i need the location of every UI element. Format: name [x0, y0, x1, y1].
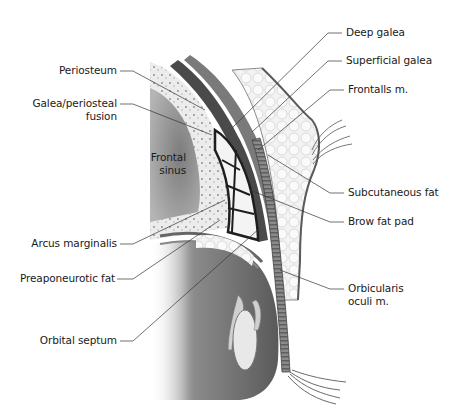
- label-orbicularis-line1: Orbicularis: [348, 282, 404, 295]
- label-orbicularis-oculi: Orbicularis oculi m.: [348, 282, 404, 308]
- label-brow-fat-pad: Brow fat pad: [348, 215, 414, 228]
- label-frontal-sinus-line1: Frontal: [150, 151, 186, 164]
- label-frontal-sinus-line2: sinus: [150, 164, 186, 177]
- label-superficial-galea: Superficial galea: [346, 54, 432, 67]
- label-orbicularis-line2: oculi m.: [348, 295, 404, 308]
- label-frontalis: Frontalls m.: [348, 83, 408, 96]
- label-galea-periosteal-fusion: Galea/periosteal fusion: [32, 97, 117, 123]
- label-deep-galea: Deep galea: [346, 26, 405, 39]
- label-periosteum: Periosteum: [59, 64, 117, 77]
- label-orbital-septum: Orbital septum: [40, 334, 117, 347]
- label-galea-fusion-line2: fusion: [32, 110, 117, 123]
- label-arcus-marginalis: Arcus marginalis: [31, 237, 117, 250]
- label-galea-fusion-line1: Galea/periosteal: [32, 97, 117, 110]
- eyelashes: [288, 370, 346, 404]
- label-frontal-sinus: Frontal sinus: [150, 151, 186, 177]
- label-preaponeurotic-fat: Preaponeurotic fat: [20, 272, 115, 285]
- label-subcutaneous-fat: Subcutaneous fat: [348, 186, 439, 199]
